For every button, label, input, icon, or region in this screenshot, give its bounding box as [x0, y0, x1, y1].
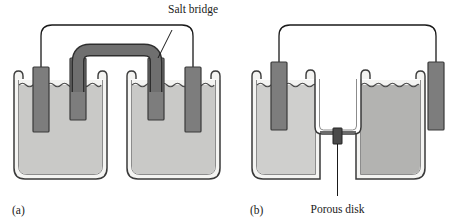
porous-disk-element	[333, 128, 342, 144]
cell-b-lip-far-right	[416, 71, 425, 80]
electrode-b-left	[271, 62, 287, 130]
electrode-b-left-bar	[271, 62, 287, 130]
beaker-a-right-lip-left	[127, 71, 136, 80]
beaker-a-right-liquid	[132, 85, 215, 174]
electrode-b-right-bar	[428, 62, 444, 130]
electrode-a-right-bar	[185, 67, 201, 132]
electrode-a-left-outer	[33, 67, 49, 132]
cell-b-center-divider	[306, 70, 370, 134]
panel-b-label: (b)	[250, 204, 264, 217]
beaker-a-right-lip-right	[211, 71, 220, 80]
figure-root: Salt bridge (a)	[0, 0, 476, 224]
electrochemical-cell-diagram: Salt bridge (a)	[0, 0, 476, 224]
beaker-a-left	[14, 71, 107, 179]
cell-b-right-liquid	[361, 85, 420, 174]
panel-a-label: (a)	[12, 204, 25, 217]
porous-disk-label: Porous disk	[311, 203, 365, 215]
beaker-a-left-lip-left	[14, 71, 23, 80]
cell-b-lip-far-left	[252, 71, 261, 80]
electrode-a-right-outer	[185, 67, 201, 132]
electrode-b-right	[428, 62, 444, 130]
beaker-a-left-liquid	[19, 85, 102, 174]
cell-b-divider-outer	[315, 79, 361, 134]
cell-b-divider-lip-right	[361, 70, 370, 79]
salt-bridge-label: Salt bridge	[168, 3, 218, 16]
beaker-a-right	[127, 71, 220, 179]
electrode-a-left-bar	[33, 67, 49, 132]
beaker-a-left-lip-right	[98, 71, 107, 80]
cell-b-divider-lip-left	[306, 70, 315, 79]
